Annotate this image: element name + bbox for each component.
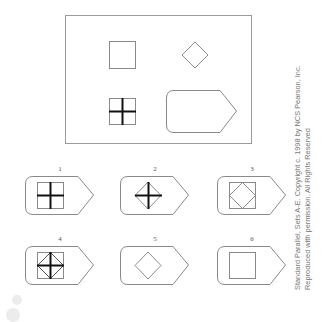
matrix-square	[110, 42, 136, 69]
answer-slot	[167, 91, 237, 133]
decorative-dot	[6, 308, 20, 322]
option-label-2: 2	[145, 165, 165, 173]
decorative-dot	[12, 295, 22, 305]
matrix-box	[66, 16, 252, 144]
option-5[interactable]	[121, 247, 189, 285]
matrix-diamond	[182, 42, 208, 68]
option-label-3: 3	[242, 165, 262, 173]
copyright-credit: Standard Parallel, Sets A-E. Copyright c…	[293, 30, 312, 290]
option-label-5: 5	[145, 235, 165, 243]
option-3[interactable]	[218, 177, 286, 215]
option-6[interactable]	[218, 247, 286, 285]
matrix-square-cross	[109, 98, 136, 125]
credit-line-1: Standard Parallel, Sets A-E. Copyright c…	[293, 30, 303, 290]
option-1[interactable]	[26, 177, 94, 215]
credit-line-2: Reproduced with permission. All Rights R…	[303, 30, 313, 290]
option-2[interactable]	[121, 177, 189, 215]
option-label-4: 4	[50, 235, 70, 243]
option-label-6: 6	[242, 235, 262, 243]
option-4[interactable]	[26, 247, 94, 285]
option-label-1: 1	[50, 165, 70, 173]
